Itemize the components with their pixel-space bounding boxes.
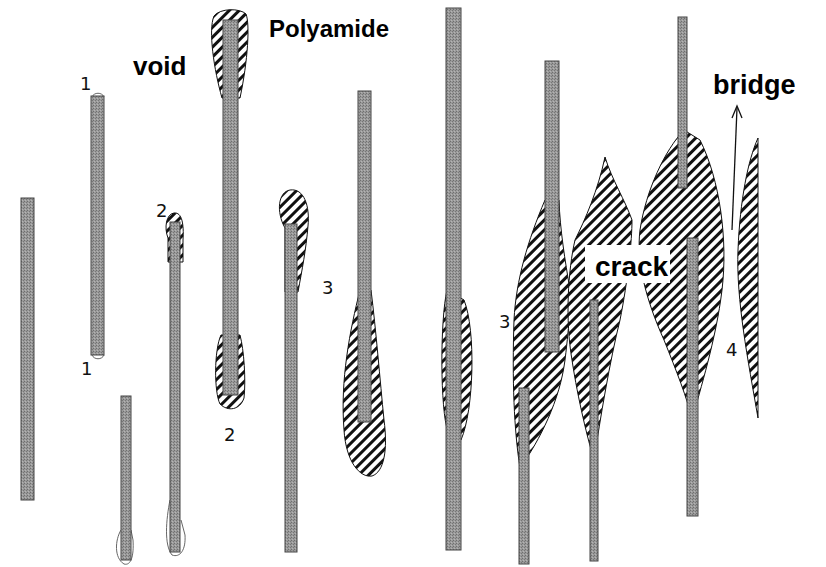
stage-marker-2-top: 2 bbox=[156, 200, 167, 221]
stage-marker-4: 4 bbox=[726, 339, 737, 360]
fiber-13 bbox=[687, 238, 698, 516]
stage-marker-3-right: 3 bbox=[499, 311, 510, 332]
fiber-1 bbox=[21, 198, 34, 500]
matrix-regions bbox=[166, 10, 758, 476]
stage-marker-1-bottom: 1 bbox=[81, 358, 92, 379]
fiber-9 bbox=[545, 61, 559, 352]
stage-marker-1-top: 1 bbox=[80, 73, 91, 94]
polyamide-crack-middle bbox=[568, 157, 632, 460]
fiber-5 bbox=[223, 20, 238, 395]
polyamide-bridge-sliver bbox=[738, 138, 758, 418]
label-crack: crack bbox=[595, 251, 669, 282]
stage-marker-3-left: 3 bbox=[322, 277, 333, 298]
label-void: void bbox=[133, 51, 186, 81]
fiber-12 bbox=[678, 17, 687, 188]
void-tip-fiber2-bottom bbox=[92, 355, 104, 359]
fiber-7 bbox=[358, 91, 371, 422]
diagram-svg: void Polyamide bridge crack 1 1 2 2 3 3 … bbox=[0, 0, 826, 567]
label-bridge: bridge bbox=[713, 70, 796, 100]
fiber-3 bbox=[121, 396, 131, 560]
fiber-8 bbox=[446, 8, 461, 550]
fiber-10 bbox=[519, 388, 529, 564]
fiber-6 bbox=[285, 224, 297, 552]
label-polyamide: Polyamide bbox=[269, 15, 389, 42]
fiber-4 bbox=[170, 222, 180, 552]
diagram-canvas: void Polyamide bridge crack 1 1 2 2 3 3 … bbox=[0, 0, 826, 567]
fiber-11 bbox=[590, 300, 598, 561]
fiber-2 bbox=[91, 96, 104, 355]
stage-marker-2-bottom: 2 bbox=[224, 424, 235, 445]
